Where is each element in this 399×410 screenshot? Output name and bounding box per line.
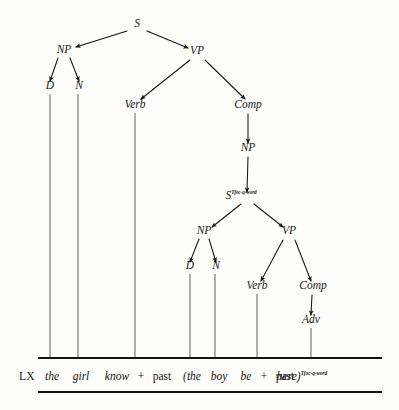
token-superscript: Tfoc-q-word bbox=[301, 370, 328, 376]
sentence-token-the-1: the bbox=[45, 370, 59, 382]
tree-node-verb-main: Verb bbox=[124, 98, 145, 110]
node-label-text: D bbox=[185, 259, 195, 271]
token-text: the bbox=[45, 370, 59, 382]
node-superscript: Tfoc-q-word bbox=[231, 189, 257, 195]
tree-branch-s-emb-to-np-emb-subj bbox=[212, 204, 241, 227]
node-label-text: D bbox=[45, 79, 55, 91]
token-text: LX bbox=[19, 370, 35, 382]
token-text: past bbox=[153, 370, 172, 383]
node-label-text: Verb bbox=[246, 279, 267, 291]
tree-node-d-emb: D bbox=[185, 259, 195, 271]
token-text: (the bbox=[183, 370, 201, 383]
node-label-text: Adv bbox=[301, 313, 321, 325]
node-label-text: S bbox=[134, 17, 140, 29]
tree-node-verb-emb: Verb bbox=[246, 279, 267, 291]
tree-node-s-root: S bbox=[134, 17, 140, 29]
tree-node-vp-main: VP bbox=[190, 44, 204, 56]
sentence-token-plus-2: + bbox=[261, 370, 268, 382]
sentence-token-know: know bbox=[105, 370, 130, 382]
token-text: here) bbox=[277, 370, 301, 383]
tree-node-adv-emb: Adv bbox=[301, 313, 321, 325]
tree-node-d-subj: D bbox=[45, 79, 55, 91]
sentence-token-plus-1: + bbox=[138, 370, 145, 382]
node-label-text: Verb bbox=[124, 98, 145, 110]
tree-branch-s-emb-to-vp-emb bbox=[254, 204, 283, 227]
token-text: + bbox=[138, 370, 145, 382]
node-label-text: Comp bbox=[234, 98, 262, 111]
tree-branch-s-root-to-np-subj bbox=[76, 31, 127, 47]
sentence-token-here: here)Tfoc-q-word bbox=[277, 370, 328, 383]
node-label-text: N bbox=[74, 79, 84, 91]
token-text: girl bbox=[73, 370, 90, 383]
token-text: know bbox=[105, 370, 130, 382]
tree-branch-vp-main-to-verb-main bbox=[141, 60, 190, 99]
sentence-token-the-2: (the bbox=[183, 370, 201, 383]
tree-node-np-subj: NP bbox=[56, 43, 72, 55]
node-label-text: NP bbox=[196, 224, 212, 236]
sentence-token-be: be bbox=[241, 370, 252, 382]
tree-branch-s-root-to-vp-main bbox=[147, 31, 188, 48]
tree-branch-vp-emb-to-comp-emb bbox=[295, 240, 311, 281]
sentence-token-girl: girl bbox=[73, 370, 90, 383]
tree-node-np-emb: NP bbox=[240, 141, 256, 153]
branch-layer bbox=[50, 31, 312, 315]
tree-node-comp-main: Comp bbox=[234, 98, 262, 111]
tree-node-n-subj: N bbox=[74, 79, 84, 91]
leg-layer bbox=[50, 94, 311, 358]
sentence-token-past-1: past bbox=[153, 370, 172, 383]
syntax-tree-diagram: SNPVPDNVerbCompNPSTfoc-q-wordNPVPDNVerbC… bbox=[0, 0, 399, 410]
tree-node-np-emb-subj: NP bbox=[196, 224, 212, 236]
tree-branch-np-subj-to-d-subj bbox=[50, 58, 58, 81]
tree-branch-vp-main-to-comp-main bbox=[205, 60, 245, 99]
tree-node-s-emb: STfoc-q-word bbox=[225, 189, 257, 201]
token-text: boy bbox=[211, 370, 229, 383]
tree-branch-vp-emb-to-verb-emb bbox=[261, 240, 283, 281]
node-label-text: VP bbox=[190, 44, 204, 56]
sentence-token-lx: LX bbox=[19, 370, 35, 382]
tree-node-n-emb: N bbox=[211, 259, 221, 271]
tree-node-comp-emb: Comp bbox=[299, 279, 327, 292]
tree-canvas: SNPVPDNVerbCompNPSTfoc-q-wordNPVPDNVerbC… bbox=[0, 0, 399, 410]
node-label-text: NP bbox=[240, 141, 256, 153]
node-label-text: Comp bbox=[299, 279, 327, 292]
node-label-text: NP bbox=[56, 43, 72, 55]
sentence-token-boy: boy bbox=[211, 370, 229, 383]
tree-node-vp-emb: VP bbox=[282, 224, 296, 236]
node-label-text: N bbox=[211, 259, 221, 271]
token-text: + bbox=[261, 370, 268, 382]
sentence-layer: LXthegirlknow+past(theboybe+pasthere)Tfo… bbox=[19, 370, 328, 383]
tree-branch-np-emb-to-s-emb bbox=[247, 157, 248, 192]
node-label-text: VP bbox=[282, 224, 296, 236]
tree-branch-np-subj-to-n-subj bbox=[70, 58, 79, 81]
tree-branch-comp-emb-to-adv-emb bbox=[311, 295, 312, 315]
token-text: be bbox=[241, 370, 252, 382]
